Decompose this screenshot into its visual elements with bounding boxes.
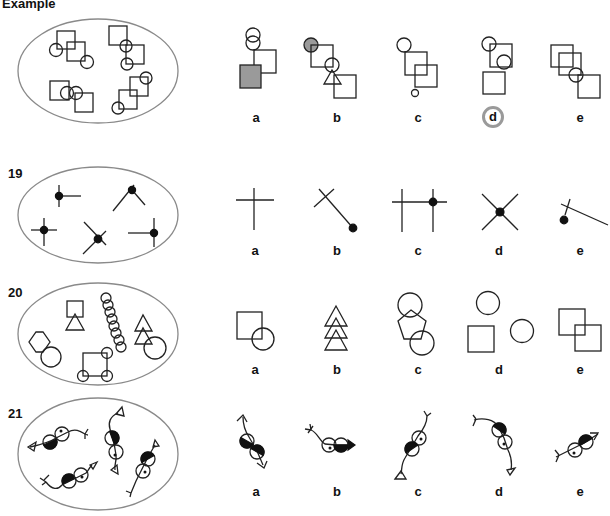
row-19-option-a-figure[interactable] — [236, 188, 278, 233]
row-20-option-c[interactable]: c — [408, 362, 428, 377]
row-19-option-d[interactable]: d — [489, 243, 509, 258]
row-20-option-a-figure[interactable] — [237, 312, 279, 354]
row-21-option-d-figure[interactable] — [470, 412, 525, 477]
row-21-option-d[interactable]: d — [489, 484, 509, 499]
row-21-option-e-figure[interactable] — [550, 420, 610, 470]
row-21-option-c[interactable]: c — [408, 484, 428, 499]
example-option-d[interactable]: d — [483, 109, 503, 124]
row-19-option-c[interactable]: c — [408, 243, 428, 258]
row-20-option-e[interactable]: e — [570, 362, 590, 377]
row-19-option-e[interactable]: e — [570, 243, 590, 258]
example-option-b[interactable]: b — [327, 110, 347, 125]
row-21-option-b-figure[interactable] — [301, 420, 361, 460]
row-20-option-d[interactable]: d — [489, 362, 509, 377]
example-option-b-figure[interactable] — [303, 38, 363, 100]
row-20-option-d-figure[interactable] — [468, 291, 534, 357]
example-option-c[interactable]: c — [408, 110, 428, 125]
row-21-option-c-figure[interactable] — [391, 408, 436, 483]
row-21-option-e[interactable]: e — [570, 484, 590, 499]
row-19-set-oval — [0, 155, 200, 275]
row-20-option-c-figure[interactable] — [394, 293, 439, 357]
row-21-set-oval — [0, 385, 200, 516]
row-19-option-b-figure[interactable] — [314, 187, 359, 232]
example-option-e-figure[interactable] — [551, 45, 610, 101]
row-21-option-a-figure[interactable] — [233, 413, 273, 475]
row-20-option-a[interactable]: a — [245, 362, 265, 377]
row-19-option-c-figure[interactable] — [392, 189, 452, 234]
row-19-option-b[interactable]: b — [327, 243, 347, 258]
example-option-a[interactable]: a — [246, 110, 266, 125]
row-20-option-b[interactable]: b — [327, 362, 347, 377]
example-option-e[interactable]: e — [570, 110, 590, 125]
row-19-option-e-figure[interactable] — [560, 199, 610, 231]
row-20-option-b-figure[interactable] — [325, 306, 350, 354]
example-option-a-figure[interactable] — [240, 30, 280, 90]
example-option-c-figure[interactable] — [397, 38, 447, 102]
row-19-option-a[interactable]: a — [245, 243, 265, 258]
example-option-d-figure[interactable] — [482, 36, 522, 100]
example-set-oval — [0, 0, 200, 140]
row-20-option-e-figure[interactable] — [559, 309, 605, 355]
row-19-option-d-figure[interactable] — [482, 194, 522, 234]
row-20-set-oval — [0, 265, 200, 390]
row-21-option-b[interactable]: b — [327, 484, 347, 499]
row-21-option-a[interactable]: a — [246, 484, 266, 499]
